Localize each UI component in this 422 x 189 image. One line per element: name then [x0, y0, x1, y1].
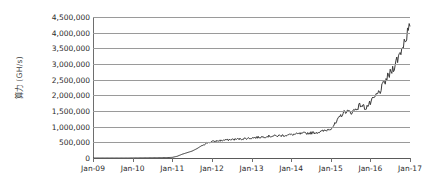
x-axis-tick: [252, 158, 253, 162]
y-axis-tick-label: 4,500,000: [52, 13, 90, 22]
y-axis-tick-label: 2,500,000: [52, 75, 90, 84]
gridline: [93, 48, 410, 49]
gridline: [93, 17, 410, 18]
plot-area: [93, 17, 410, 158]
x-axis-tick: [410, 158, 411, 162]
x-axis-tick: [133, 158, 134, 162]
x-axis-tick-label: Jan-17: [398, 164, 422, 173]
x-axis-ticks: [93, 158, 410, 163]
gridline: [93, 111, 410, 112]
x-axis-tick: [93, 158, 94, 162]
x-axis-tick-labels: Jan-09Jan-10Jan-11Jan-12Jan-13Jan-14Jan-…: [93, 164, 410, 178]
x-axis-tick-label: Jan-10: [121, 164, 145, 173]
x-axis-tick-label: Jan-14: [279, 164, 303, 173]
x-axis-tick-label: Jan-16: [358, 164, 382, 173]
y-axis-tick-labels: 0500,0001,000,0001,500,0002,000,0002,500…: [28, 17, 90, 158]
x-axis-tick: [212, 158, 213, 162]
x-axis-tick-label: Jan-12: [200, 164, 224, 173]
x-axis-tick-label: Jan-15: [319, 164, 343, 173]
x-axis-tick-label: Jan-09: [81, 164, 105, 173]
hashrate-series: [93, 17, 410, 158]
x-axis-tick-label: Jan-11: [160, 164, 184, 173]
gridline: [93, 64, 410, 65]
x-axis-tick-label: Jan-13: [240, 164, 264, 173]
x-axis-tick: [331, 158, 332, 162]
y-axis-tick-label: 500,000: [59, 138, 90, 147]
y-axis-title-label: 算力 (GH/s): [13, 56, 24, 99]
y-axis-tick-label: 0: [85, 154, 90, 163]
gridline: [93, 127, 410, 128]
gridline: [93, 80, 410, 81]
gridline: [93, 95, 410, 96]
gridline: [93, 142, 410, 143]
hashrate-series-line: [93, 24, 410, 158]
y-axis-tick-label: 4,000,000: [52, 28, 90, 37]
y-axis-tick-label: 2,000,000: [52, 91, 90, 100]
y-axis-tick-label: 1,000,000: [52, 122, 90, 131]
x-axis-tick: [370, 158, 371, 162]
x-axis-tick: [172, 158, 173, 162]
gridline: [93, 33, 410, 34]
y-axis-tick-label: 3,000,000: [52, 60, 90, 69]
y-axis-tick-label: 3,500,000: [52, 44, 90, 53]
x-axis-tick: [291, 158, 292, 162]
y-axis-tick-label: 1,500,000: [52, 107, 90, 116]
